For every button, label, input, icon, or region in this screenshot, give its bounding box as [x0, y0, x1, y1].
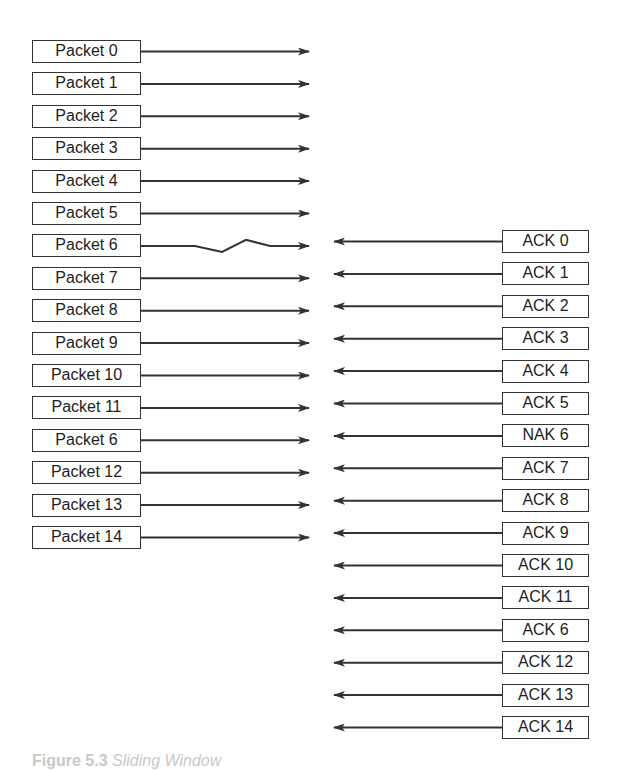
ack-box: ACK 7 [502, 457, 589, 480]
ack-box: ACK 6 [502, 619, 589, 642]
ack-box: ACK 8 [502, 489, 589, 512]
ack-box: ACK 11 [502, 586, 589, 609]
packet-box: Packet 12 [32, 461, 141, 484]
ack-box: ACK 10 [502, 554, 589, 577]
packet-box: Packet 13 [32, 494, 141, 517]
packet-box: Packet 2 [32, 105, 141, 128]
nak-box: NAK 6 [502, 424, 589, 447]
figure-caption-text: Sliding Window [112, 752, 221, 769]
figure-caption: Figure 5.3 Sliding Window [32, 752, 221, 770]
packet-box: Packet 6 [32, 234, 141, 257]
lost-packet-arrow [141, 240, 309, 252]
ack-arrows [334, 242, 502, 728]
packet-box: Packet 9 [32, 332, 141, 355]
ack-box: ACK 3 [502, 327, 589, 350]
ack-box: ACK 0 [502, 230, 589, 253]
ack-box: ACK 1 [502, 262, 589, 285]
figure-number: Figure 5.3 [32, 752, 108, 769]
packet-box: Packet 7 [32, 267, 141, 290]
send-arrows [141, 52, 309, 538]
ack-box: ACK 12 [502, 651, 589, 674]
ack-box: ACK 4 [502, 360, 589, 383]
packet-box: Packet 5 [32, 202, 141, 225]
ack-box: ACK 14 [502, 716, 589, 739]
ack-box: ACK 5 [502, 392, 589, 415]
ack-box: ACK 13 [502, 684, 589, 707]
packet-box: Packet 8 [32, 299, 141, 322]
packet-box: Packet 14 [32, 526, 141, 549]
packet-box: Packet 1 [32, 72, 141, 95]
packet-box: Packet 0 [32, 40, 141, 63]
packet-box: Packet 11 [32, 396, 141, 419]
ack-box: ACK 2 [502, 295, 589, 318]
ack-box: ACK 9 [502, 522, 589, 545]
packet-box: Packet 4 [32, 170, 141, 193]
packet-box: Packet 6 [32, 429, 141, 452]
packet-box: Packet 10 [32, 364, 141, 387]
packet-box: Packet 3 [32, 137, 141, 160]
